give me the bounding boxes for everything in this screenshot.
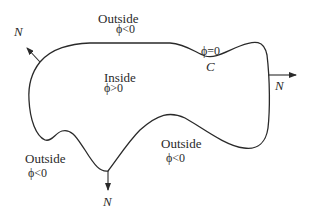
outside-bottom-left-label: Outside [25,151,66,166]
level-set-diagram: N N N Outside ϕ<0 Inside ϕ>0 Outside ϕ<0… [0,0,312,214]
outside-top-phi: ϕ<0 [116,22,135,36]
normal-label-bottom: N [102,194,113,209]
curve-c-label: C [206,59,215,74]
normal-arrow-top-left [27,48,40,62]
outside-bottom-right-phi: ϕ<0 [166,151,185,165]
normal-label-right: N [274,78,285,93]
outside-bottom-right-label: Outside [161,136,202,151]
inside-phi: ϕ>0 [104,81,123,95]
outside-bottom-left-phi: ϕ<0 [28,166,47,180]
normal-label-top-left: N [13,24,24,39]
interface-phi-label: ϕ=0 [201,44,220,58]
